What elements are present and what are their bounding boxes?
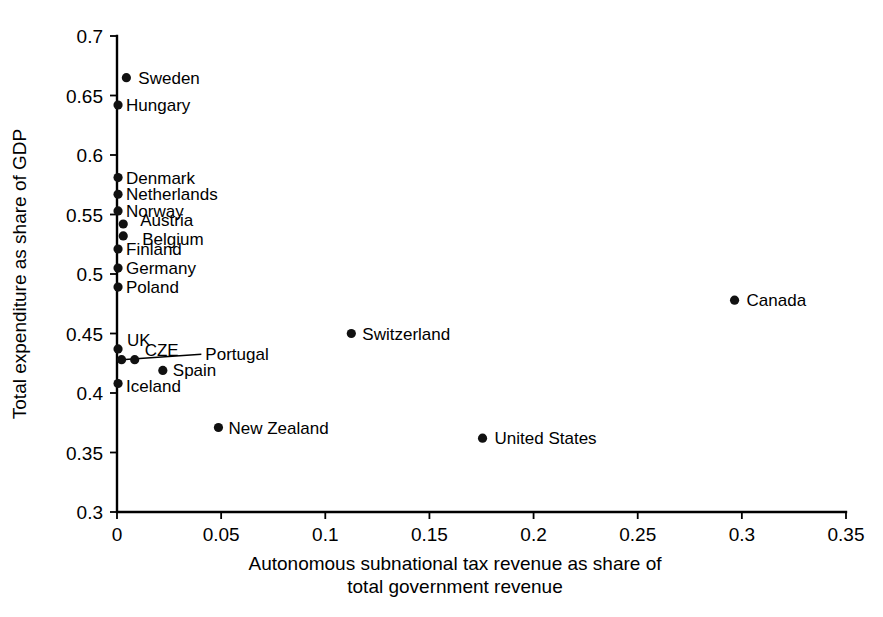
data-point-uk <box>113 344 122 353</box>
y-tick-label: 0.65 <box>66 86 103 107</box>
axes <box>110 36 846 519</box>
data-label-austria: Austria <box>140 211 193 230</box>
data-point-portugal <box>117 355 126 364</box>
y-tick-label: 0.5 <box>77 264 103 285</box>
data-point-denmark <box>113 173 122 182</box>
data-point-finland <box>113 244 122 253</box>
data-point-norway <box>113 206 122 215</box>
data-point-germany <box>113 263 122 272</box>
data-label-united-states: United States <box>495 429 597 448</box>
data-point-labels: SwedenHungaryDenmarkNetherlandsNorwayAus… <box>126 69 807 449</box>
data-point-new-zealand <box>214 423 223 432</box>
data-label-iceland: Iceland <box>126 377 181 396</box>
plot-canvas: 00.050.10.150.20.250.30.35 0.30.350.40.4… <box>0 0 883 617</box>
x-axis-label-line-1: Autonomous subnational tax revenue as sh… <box>249 553 663 574</box>
x-tick-label: 0.05 <box>203 524 240 545</box>
x-tick-label: 0.1 <box>312 524 338 545</box>
data-point-spain <box>158 366 167 375</box>
data-label-germany: Germany <box>126 259 196 278</box>
data-label-canada: Canada <box>747 291 807 310</box>
y-axis-tick-labels: 0.30.350.40.450.50.550.60.650.7 <box>66 26 103 523</box>
data-label-cze: CZE <box>145 341 179 360</box>
data-label-new-zealand: New Zealand <box>228 419 328 438</box>
y-tick-label: 0.55 <box>66 205 103 226</box>
scatter-chart-figure: 00.050.10.150.20.250.30.35 0.30.350.40.4… <box>0 0 883 617</box>
x-tick-label: 0 <box>112 524 123 545</box>
data-label-switzerland: Switzerland <box>362 325 450 344</box>
data-point-poland <box>113 282 122 291</box>
y-tick-label: 0.4 <box>77 383 104 404</box>
x-axis-tick-labels: 00.050.10.150.20.250.30.35 <box>112 524 865 545</box>
y-tick-label: 0.7 <box>77 26 103 47</box>
y-tick-label: 0.35 <box>66 443 103 464</box>
y-tick-label: 0.45 <box>66 324 103 345</box>
x-axis-label-line-2: total government revenue <box>347 576 562 597</box>
x-tick-label: 0.15 <box>411 524 448 545</box>
data-point-cze <box>130 355 139 364</box>
y-axis-label: Total expenditure as share of GDP <box>9 129 30 419</box>
data-label-finland: Finland <box>126 240 182 259</box>
x-tick-label: 0.3 <box>729 524 755 545</box>
data-point-iceland <box>113 379 122 388</box>
y-tick-label: 0.3 <box>77 502 103 523</box>
data-label-poland: Poland <box>126 278 179 297</box>
data-point-united-states <box>478 434 487 443</box>
data-point-hungary <box>113 100 122 109</box>
data-points <box>113 73 739 443</box>
data-label-hungary: Hungary <box>126 96 191 115</box>
x-tick-label: 0.25 <box>619 524 656 545</box>
data-label-sweden: Sweden <box>138 69 199 88</box>
x-tick-label: 0.35 <box>828 524 865 545</box>
x-tick-label: 0.2 <box>520 524 546 545</box>
data-point-switzerland <box>347 329 356 338</box>
data-point-netherlands <box>113 190 122 199</box>
data-point-canada <box>730 296 739 305</box>
data-point-sweden <box>122 73 131 82</box>
y-tick-label: 0.6 <box>77 145 103 166</box>
